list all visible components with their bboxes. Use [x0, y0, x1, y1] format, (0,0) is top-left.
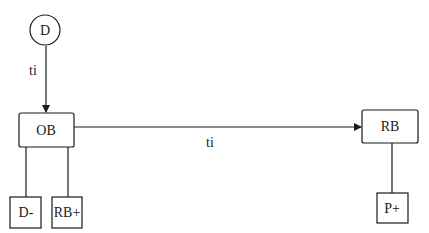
node-rb: RB — [362, 110, 418, 143]
node-rb-label: RB — [381, 119, 400, 134]
node-rb-plus-label: RB+ — [54, 205, 81, 220]
node-p-plus-label: P+ — [384, 201, 400, 216]
edge-d-to-ob: ti — [29, 46, 46, 112]
diagram-canvas: ti ti D OB RB D- RB+ P+ — [0, 0, 429, 233]
node-p-plus: P+ — [377, 193, 408, 223]
node-ob-label: OB — [36, 123, 55, 138]
node-d: D — [30, 15, 60, 45]
node-d-minus: D- — [10, 197, 41, 228]
edge-ob-to-rb: ti — [74, 127, 361, 150]
edge-label-ob-rb: ti — [206, 135, 214, 150]
node-rb-plus: RB+ — [52, 197, 82, 228]
node-d-label: D — [40, 23, 50, 38]
node-d-minus-label: D- — [19, 205, 34, 220]
edge-label-d-ob: ti — [29, 63, 37, 78]
node-ob: OB — [19, 113, 74, 147]
